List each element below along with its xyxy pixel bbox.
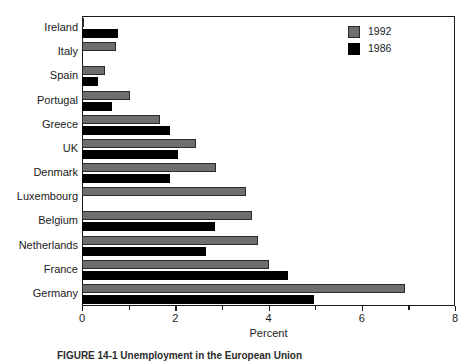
x-tick-minor-7 bbox=[408, 306, 409, 310]
bar-portugal-1992 bbox=[82, 91, 130, 100]
bar-denmark-1992 bbox=[82, 163, 216, 172]
bar-spain-1986 bbox=[82, 77, 98, 86]
x-tick-label-4: 4 bbox=[265, 312, 271, 324]
x-tick-4 bbox=[269, 306, 270, 311]
y-axis-label-netherlands: Netherlands bbox=[2, 239, 78, 251]
legend-entry-1986: 1986 bbox=[348, 41, 428, 58]
legend-label-1992: 1992 bbox=[368, 25, 391, 37]
bar-belgium-1986 bbox=[82, 222, 215, 231]
legend-swatch-1986 bbox=[348, 43, 360, 55]
y-axis-label-luxembourg: Luxembourg bbox=[2, 190, 78, 202]
x-tick-minor-1 bbox=[129, 306, 130, 310]
x-tick-6 bbox=[362, 306, 363, 311]
bar-france-1986 bbox=[82, 271, 288, 280]
x-tick-label-2: 2 bbox=[172, 312, 178, 324]
legend-swatch-1992 bbox=[348, 26, 360, 38]
bar-ireland-1992 bbox=[82, 18, 84, 27]
x-tick-label-8: 8 bbox=[452, 312, 458, 324]
y-axis-label-spain: Spain bbox=[2, 69, 78, 81]
bar-spain-1992 bbox=[82, 66, 105, 75]
chart-figure: IrelandItalySpainPortugalGreeceUKDenmark… bbox=[0, 0, 476, 361]
x-tick-0 bbox=[82, 306, 83, 311]
x-tick-2 bbox=[175, 306, 176, 311]
x-tick-minor-5 bbox=[315, 306, 316, 310]
y-axis-label-belgium: Belgium bbox=[2, 214, 78, 226]
bar-germany-1992 bbox=[82, 284, 405, 293]
bar-portugal-1986 bbox=[82, 102, 112, 111]
bar-france-1992 bbox=[82, 260, 269, 269]
legend-entry-1992: 1992 bbox=[348, 24, 428, 41]
bar-luxembourg-1992 bbox=[82, 187, 246, 196]
bar-greece-1986 bbox=[82, 126, 170, 135]
bar-italy-1992 bbox=[82, 42, 116, 51]
x-tick-minor-3 bbox=[222, 306, 223, 310]
y-axis-category-labels: IrelandItalySpainPortugalGreeceUKDenmark… bbox=[0, 16, 78, 306]
y-axis-label-greece: Greece bbox=[2, 118, 78, 130]
bar-belgium-1992 bbox=[82, 211, 252, 220]
bar-netherlands-1986 bbox=[82, 247, 206, 256]
y-axis-label-france: France bbox=[2, 263, 78, 275]
y-axis-label-uk: UK bbox=[2, 142, 78, 154]
bar-germany-1986 bbox=[82, 295, 314, 304]
bar-uk-1992 bbox=[82, 139, 196, 148]
x-tick-label-6: 6 bbox=[359, 312, 365, 324]
bar-ireland-1986 bbox=[82, 29, 118, 38]
x-tick-label-0: 0 bbox=[79, 312, 85, 324]
figure-caption: FIGURE 14-1 Unemployment in the European… bbox=[57, 350, 457, 361]
y-axis-label-ireland: Ireland bbox=[2, 21, 78, 33]
y-axis-label-germany: Germany bbox=[2, 287, 78, 299]
bars-plot-area bbox=[82, 16, 455, 306]
bar-denmark-1986 bbox=[82, 174, 170, 183]
y-axis-label-portugal: Portugal bbox=[2, 94, 78, 106]
legend-label-1986: 1986 bbox=[368, 42, 391, 54]
bar-uk-1986 bbox=[82, 150, 178, 159]
x-tick-8 bbox=[455, 306, 456, 311]
y-axis-label-italy: Italy bbox=[2, 45, 78, 57]
bar-greece-1992 bbox=[82, 115, 160, 124]
chart-legend: 19921986 bbox=[348, 24, 428, 58]
x-axis-title: Percent bbox=[82, 327, 455, 339]
y-axis-label-denmark: Denmark bbox=[2, 166, 78, 178]
bar-netherlands-1992 bbox=[82, 236, 258, 245]
